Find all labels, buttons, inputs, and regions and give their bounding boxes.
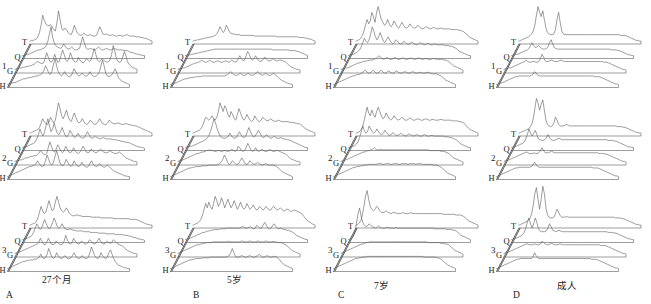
- group-number: 1: [165, 61, 170, 71]
- trace-G: [15, 142, 137, 165]
- axis-tick-T: T: [22, 222, 27, 231]
- group-number: 1: [491, 61, 496, 71]
- axis-tick-H: H: [0, 174, 6, 183]
- trace-H: [497, 253, 619, 272]
- axis-tick-G: G: [496, 251, 502, 260]
- group-number: 3: [2, 245, 7, 255]
- trace-T: [356, 107, 478, 136]
- trace-H: [171, 72, 293, 88]
- panel-D: TQGH1 TQGH2 TQGH3 D 成人: [489, 0, 651, 304]
- group-number: 2: [491, 153, 496, 163]
- axis-tick-T: T: [22, 130, 27, 139]
- group-number: 2: [165, 153, 170, 163]
- trace-Q: [349, 27, 471, 59]
- axis-tick-T: T: [511, 130, 516, 139]
- panel-C-group-1: TQGH1: [326, 0, 489, 95]
- panel-D-group-2: TQGH2: [489, 92, 651, 187]
- trace-G: [341, 242, 463, 257]
- group-number: 1: [328, 61, 333, 71]
- axis-tick-Q: Q: [178, 53, 184, 62]
- trace-T: [519, 7, 641, 44]
- trace-Q: [512, 40, 634, 59]
- axis-tick-Q: Q: [178, 237, 184, 246]
- trace-T: [519, 186, 641, 228]
- axis-tick-H: H: [489, 174, 495, 183]
- trace-Q: [186, 222, 308, 242]
- axis-tick-H: H: [163, 266, 169, 275]
- axis-tick-G: G: [7, 67, 13, 76]
- trace-T: [519, 99, 641, 136]
- axis-tick-Q: Q: [15, 237, 21, 246]
- trace-T: [193, 103, 315, 136]
- panel-caption-C: 7岁: [374, 278, 389, 292]
- axis-tick-H: H: [0, 82, 6, 91]
- axis-tick-Q: Q: [504, 237, 510, 246]
- panel-B-group-3: TQGH3: [163, 184, 326, 279]
- axis-tick-H: H: [326, 174, 332, 183]
- group-number: 3: [165, 245, 170, 255]
- axis-tick-T: T: [348, 130, 353, 139]
- trace-Q: [186, 49, 308, 58]
- axis-tick-G: G: [333, 159, 339, 168]
- waterfall-plot: [163, 92, 326, 187]
- panel-B-group-1: TQGH1: [163, 0, 326, 95]
- panel-D-group-1: TQGH1: [489, 0, 651, 95]
- trace-G: [504, 241, 626, 257]
- panel-A-group-2: TQGH2: [0, 92, 163, 187]
- axis-tick-G: G: [496, 159, 502, 168]
- waterfall-plot: [489, 0, 651, 95]
- trace-Q: [512, 129, 634, 151]
- axis-tick-Q: Q: [178, 145, 184, 154]
- trace-G: [504, 54, 626, 73]
- axis-tick-G: G: [170, 67, 176, 76]
- axis-tick-T: T: [348, 222, 353, 231]
- panel-letter-D: D: [513, 290, 520, 300]
- trace-H: [334, 256, 456, 271]
- waterfall-plot: [0, 184, 163, 279]
- axis-tick-Q: Q: [341, 237, 347, 246]
- trace-G: [178, 143, 300, 165]
- trace-G: [178, 51, 300, 73]
- axis-tick-G: G: [333, 251, 339, 260]
- waterfall-plot: [0, 92, 163, 187]
- axis-tick-H: H: [489, 82, 495, 91]
- trace-Q: [512, 218, 634, 242]
- trace-Q: [186, 119, 308, 151]
- figure-root: TQGH1 TQGH2 TQGH3 A 27个月 TQGH1 TQGH2 TQG…: [0, 0, 651, 304]
- trace-H: [334, 164, 456, 180]
- group-number: 2: [328, 153, 333, 163]
- trace-H: [8, 247, 130, 271]
- axis-tick-Q: Q: [341, 145, 347, 154]
- axis-tick-Q: Q: [504, 53, 510, 62]
- waterfall-plot: [163, 0, 326, 95]
- trace-Q: [349, 126, 471, 150]
- axis-tick-T: T: [185, 222, 190, 231]
- axis-tick-T: T: [22, 38, 27, 47]
- axis-tick-G: G: [7, 251, 13, 260]
- axis-tick-G: G: [170, 159, 176, 168]
- trace-T: [356, 191, 478, 228]
- trace-T: [193, 25, 315, 44]
- axis-tick-H: H: [326, 82, 332, 91]
- waterfall-plot: [326, 92, 489, 187]
- trace-H: [171, 248, 293, 271]
- axis-tick-G: G: [7, 159, 13, 168]
- trace-G: [15, 235, 137, 257]
- waterfall-plot: [489, 184, 651, 279]
- panel-A-group-3: TQGH3: [0, 184, 163, 279]
- panel-B-group-2: TQGH2: [163, 92, 326, 187]
- trace-H: [497, 72, 619, 88]
- waterfall-plot: [326, 0, 489, 95]
- axis-tick-Q: Q: [341, 53, 347, 62]
- axis-tick-H: H: [163, 82, 169, 91]
- panel-caption-B: 5岁: [227, 272, 242, 286]
- axis-tick-T: T: [348, 38, 353, 47]
- waterfall-plot: [489, 92, 651, 187]
- trace-H: [171, 155, 293, 179]
- trace-T: [193, 196, 315, 228]
- waterfall-plot: [0, 0, 163, 95]
- axis-tick-G: G: [496, 67, 502, 76]
- axis-tick-H: H: [0, 266, 6, 275]
- group-number: 1: [2, 61, 7, 71]
- waterfall-plot: [326, 184, 489, 279]
